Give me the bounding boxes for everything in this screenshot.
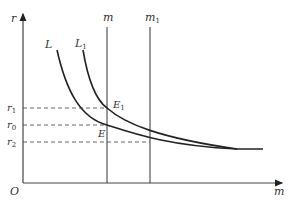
label-E: E xyxy=(97,128,106,139)
label-L1: L1 xyxy=(74,37,87,51)
curve-L1 xyxy=(83,50,237,149)
label-E1: E1 xyxy=(112,99,125,112)
label-L: L xyxy=(44,38,52,51)
origin-label: O xyxy=(10,185,19,198)
money-demand-diagram: r m O m m1 r1 r0 r2 L L1 E1 E xyxy=(0,0,294,204)
label-r0: r0 xyxy=(7,119,16,132)
label-m: m xyxy=(103,11,113,24)
x-axis-label: m xyxy=(274,185,284,198)
label-r1: r1 xyxy=(7,102,16,115)
label-r2: r2 xyxy=(7,136,16,149)
label-m1: m1 xyxy=(145,11,160,25)
y-axis-label: r xyxy=(11,12,17,25)
